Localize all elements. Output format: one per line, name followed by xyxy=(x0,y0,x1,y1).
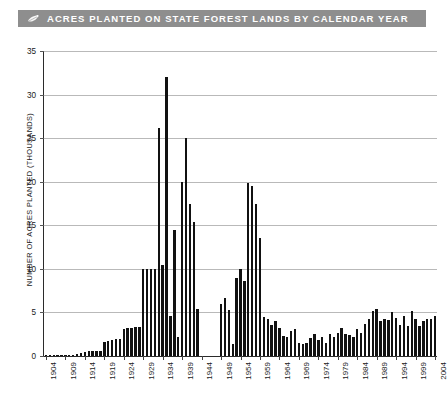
plot-area: 05101520253035 1904190919141919192419291… xyxy=(44,51,437,356)
x-axis-tick-mark xyxy=(85,356,86,360)
x-axis-tick-label: 1934 xyxy=(166,362,175,380)
x-axis-tick-mark xyxy=(163,356,164,360)
bar xyxy=(313,334,315,356)
bar xyxy=(255,204,257,357)
x-axis-tick-mark xyxy=(299,356,300,360)
x-axis-tick-mark xyxy=(182,356,183,360)
bar xyxy=(414,319,416,356)
x-axis-tick-label: 1914 xyxy=(88,362,97,380)
x-axis-tick-label: 1999 xyxy=(419,362,428,380)
y-axis-tick-mark xyxy=(40,312,44,313)
bar xyxy=(142,269,144,356)
x-axis-tick-label: 1939 xyxy=(186,362,195,380)
bar xyxy=(126,328,128,356)
bar xyxy=(239,269,241,356)
bar xyxy=(158,128,160,356)
y-axis-tick-mark xyxy=(40,225,44,226)
bar xyxy=(123,329,125,356)
bar xyxy=(418,326,420,356)
bar xyxy=(134,327,136,356)
x-axis-tick-label: 1929 xyxy=(147,362,156,380)
y-axis-line xyxy=(43,51,44,356)
bar xyxy=(103,342,105,356)
chart-title-bar: ACRES PLANTED ON STATE FOREST LANDS BY C… xyxy=(18,10,426,27)
bar xyxy=(53,355,55,356)
chart-title: ACRES PLANTED ON STATE FOREST LANDS BY C… xyxy=(47,14,409,24)
bar xyxy=(298,343,300,356)
bar xyxy=(165,77,167,356)
bar xyxy=(130,328,132,356)
x-axis-tick-label: 1954 xyxy=(244,362,253,380)
x-axis-tick-label: 1919 xyxy=(108,362,117,380)
y-axis-tick-mark xyxy=(40,51,44,52)
x-axis-tick-mark xyxy=(338,356,339,360)
bar xyxy=(403,316,405,356)
bar xyxy=(348,335,350,356)
y-axis-tick-label: 0 xyxy=(10,352,36,361)
x-axis-tick-mark xyxy=(260,356,261,360)
x-axis-tick-mark xyxy=(357,356,358,360)
y-axis-tick-label: 35 xyxy=(10,47,36,56)
bar xyxy=(259,238,261,357)
bar xyxy=(352,337,354,356)
bar xyxy=(325,343,327,356)
x-axis-tick-mark xyxy=(416,356,417,360)
x-axis-tick-label: 1909 xyxy=(69,362,78,380)
bar xyxy=(189,204,191,357)
bar xyxy=(247,183,249,356)
bar xyxy=(150,269,152,356)
bar xyxy=(294,329,296,356)
bar xyxy=(333,337,335,356)
x-axis-tick-label: 1994 xyxy=(400,362,409,380)
bar xyxy=(368,319,370,356)
bar xyxy=(220,304,222,356)
bar xyxy=(107,341,109,356)
bar xyxy=(282,336,284,356)
bar xyxy=(290,331,292,356)
bar xyxy=(430,319,432,356)
bar xyxy=(411,311,413,356)
y-axis-tick-label: 10 xyxy=(10,265,36,274)
bar xyxy=(387,320,389,356)
x-axis-tick-label: 1974 xyxy=(322,362,331,380)
bar xyxy=(286,337,288,356)
gridline xyxy=(44,225,437,226)
x-axis-tick-label: 1984 xyxy=(361,362,370,380)
bar xyxy=(177,337,179,356)
x-axis-tick-mark xyxy=(104,356,105,360)
bar xyxy=(364,324,366,356)
gridline xyxy=(44,51,437,52)
bar xyxy=(309,338,311,356)
bar xyxy=(169,316,171,356)
bar xyxy=(360,333,362,356)
x-axis-tick-label: 1924 xyxy=(127,362,136,380)
bar xyxy=(99,351,101,356)
x-axis-tick-label: 1904 xyxy=(49,362,58,380)
bar xyxy=(173,230,175,356)
bar xyxy=(80,353,82,356)
bar xyxy=(138,327,140,356)
x-axis-tick-mark xyxy=(46,356,47,360)
bar xyxy=(383,319,385,356)
bar xyxy=(119,339,121,356)
bar xyxy=(154,269,156,356)
x-axis-tick-mark xyxy=(65,356,66,360)
leaf-sprout-icon xyxy=(27,13,40,24)
y-axis-tick-mark xyxy=(40,356,44,357)
bar xyxy=(434,316,436,356)
x-axis-tick-label: 1964 xyxy=(283,362,292,380)
x-axis-tick-mark xyxy=(435,356,436,360)
y-axis-tick-mark xyxy=(40,269,44,270)
x-axis-tick-mark xyxy=(221,356,222,360)
y-axis-tick-label: 15 xyxy=(10,221,36,230)
bar xyxy=(193,222,195,356)
x-axis-tick-label: 1959 xyxy=(263,362,272,380)
y-axis-tick-label: 25 xyxy=(10,134,36,143)
y-axis-tick-label: 30 xyxy=(10,91,36,100)
bar xyxy=(76,354,78,356)
bar xyxy=(235,278,237,356)
chart-container: NUMBER OF ACRES PLANTED (THOUSANDS) 0510… xyxy=(0,27,443,406)
bar xyxy=(317,340,319,356)
bar xyxy=(379,321,381,356)
bar xyxy=(146,269,148,356)
